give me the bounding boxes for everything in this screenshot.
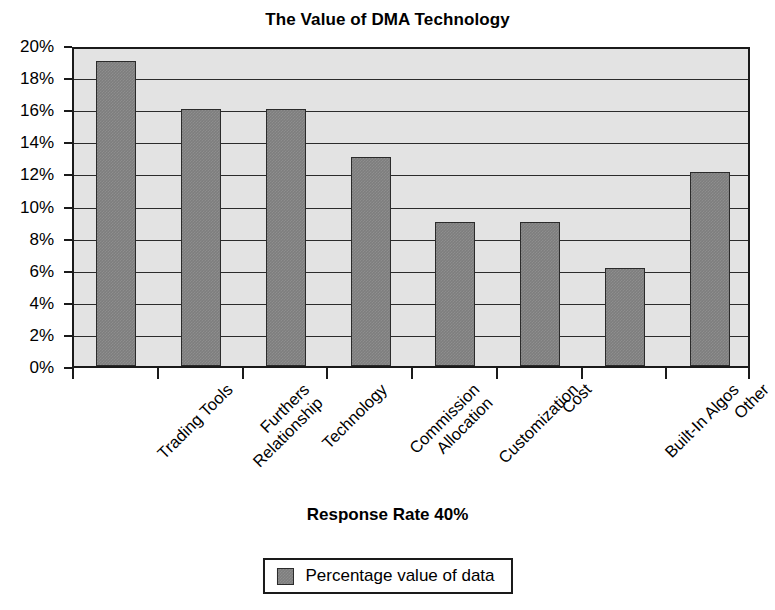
x-axis-tick-mark [665, 368, 667, 379]
bar-slot [159, 49, 244, 366]
x-axis-tick-mark [581, 368, 583, 379]
y-axis-tick-label: 10% [20, 198, 54, 218]
bar-slot [498, 49, 583, 366]
y-axis-tick-label: 20% [20, 37, 54, 57]
y-axis-tick-label: 6% [29, 262, 54, 282]
y-axis-tick-label: 0% [29, 358, 54, 378]
response-rate-note: Response Rate 40% [0, 505, 775, 525]
bar[interactable] [181, 109, 221, 366]
y-axis-tick-mark [64, 367, 72, 369]
x-axis-category-label: CommissionAllocation [405, 380, 496, 471]
bar[interactable] [435, 222, 475, 366]
y-axis-tick-label: 12% [20, 165, 54, 185]
bar-slot [583, 49, 668, 366]
x-axis-tick-mark [411, 368, 413, 379]
bar[interactable] [690, 172, 730, 366]
y-axis-tick-mark [64, 142, 72, 144]
bar[interactable] [520, 222, 560, 366]
x-axis-category-label: FurthersRelationship [236, 380, 327, 471]
chart-container: The Value of DMA Technology 20%18%16%14%… [0, 0, 775, 610]
y-axis-tick-mark [64, 239, 72, 241]
bar[interactable] [96, 61, 136, 366]
x-axis-tick-mark [72, 368, 74, 379]
x-axis-tick-mark [496, 368, 498, 379]
bar-slot [74, 49, 159, 366]
x-axis-tick-mark [157, 368, 159, 379]
y-axis-tick-label: 14% [20, 133, 54, 153]
x-axis-category-label: Technology [318, 380, 390, 452]
bar-slot [667, 49, 752, 366]
y-axis-tick-mark [64, 78, 72, 80]
x-axis-category-label: Trading Tools [153, 380, 236, 463]
legend-swatch-percentage-value [276, 568, 293, 585]
chart-legend: Percentage value of data [262, 558, 512, 594]
bar-slot [413, 49, 498, 366]
y-axis: 20%18%16%14%12%10%8%6%4%2%0% [0, 47, 64, 368]
x-axis-labels: Trading ToolsFurthersRelationshipTechnol… [72, 380, 750, 490]
y-axis-tick-mark [64, 110, 72, 112]
x-axis-tick-mark [326, 368, 328, 379]
x-axis-category-label: Built-In Algos [661, 380, 743, 462]
y-axis-tick-mark [64, 174, 72, 176]
y-axis-tick-mark [64, 207, 72, 209]
y-axis-tick-label: 8% [29, 230, 54, 250]
chart-title: The Value of DMA Technology [0, 10, 775, 30]
x-axis-tick-mark [748, 368, 750, 379]
x-axis-ticks [72, 368, 750, 380]
bar[interactable] [351, 157, 391, 366]
bar[interactable] [605, 268, 645, 366]
bar-slot [328, 49, 413, 366]
y-axis-tick-label: 18% [20, 69, 54, 89]
plot-inner [74, 49, 748, 366]
y-axis-tick-label: 4% [29, 294, 54, 314]
y-axis-tick-mark [64, 303, 72, 305]
bar-slot [244, 49, 329, 366]
plot-area [72, 47, 750, 368]
y-axis-tick-label: 16% [20, 101, 54, 121]
x-axis-tick-mark [242, 368, 244, 379]
legend-label-percentage-value: Percentage value of data [305, 566, 494, 586]
y-axis-tick-mark [64, 271, 72, 273]
y-axis-tick-label: 2% [29, 326, 54, 346]
bar[interactable] [266, 109, 306, 366]
y-axis-tick-mark [64, 46, 72, 48]
y-axis-tick-mark [64, 335, 72, 337]
